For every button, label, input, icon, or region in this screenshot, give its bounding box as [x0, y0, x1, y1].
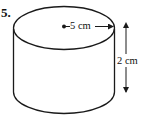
height-label: 2 cm [117, 54, 138, 67]
cylinder-diagram: 5. 5 cm 2 cm [0, 0, 142, 120]
radius-label: 5 cm [70, 20, 91, 31]
cylinder-bottom-arc [14, 92, 115, 113]
